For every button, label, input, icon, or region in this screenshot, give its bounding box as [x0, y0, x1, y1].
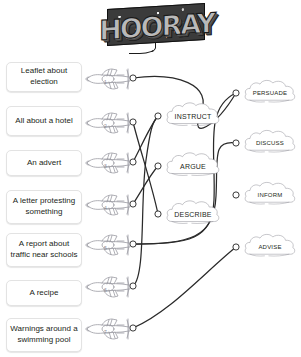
purpose-cloud[interactable]: DISCUSS — [242, 128, 298, 158]
plane-icon[interactable]: 7 — [84, 314, 140, 344]
plane-number: 2 — [104, 123, 107, 129]
prompt-card-label: Warnings around a swimming pool — [10, 324, 78, 345]
plane-number: 1 — [104, 79, 107, 85]
purpose-cloud[interactable]: PERSUADE — [242, 78, 298, 108]
cloud-connector-node[interactable] — [155, 211, 161, 217]
prompt-card[interactable]: Warnings around a swimming pool — [6, 318, 82, 352]
purpose-cloud[interactable]: INSTRUCT — [164, 100, 222, 132]
prompt-card[interactable]: A letter protesting something — [6, 190, 82, 224]
plane-number: 4 — [104, 205, 107, 211]
cloud-connector-node[interactable] — [233, 140, 239, 146]
plane-icon[interactable]: 5 — [84, 230, 140, 260]
prompt-card[interactable]: A recipe — [6, 280, 82, 306]
plane-number: 6 — [104, 287, 107, 293]
prompt-card-label: All about a hotel — [15, 116, 72, 127]
cloud-connector-node[interactable] — [233, 244, 239, 250]
plane-icon[interactable]: 4 — [84, 190, 140, 220]
plane-icon[interactable]: 6 — [84, 272, 140, 302]
plane-icon[interactable]: 2 — [84, 108, 140, 138]
cloud-connector-node[interactable] — [233, 192, 239, 198]
prompt-card-label: A letter protesting something — [10, 196, 78, 217]
cloud-connector-node[interactable] — [233, 90, 239, 96]
plane-number: 5 — [104, 245, 107, 251]
purpose-cloud[interactable]: ADVISE — [242, 232, 298, 262]
prompt-card-label: Leaflet about election — [10, 66, 78, 87]
purpose-cloud[interactable]: DESCRIBE — [164, 198, 222, 230]
activity-canvas: HOORAY Leaflet about electionAll about a… — [0, 0, 301, 357]
plane-number: 7 — [104, 329, 107, 335]
prompt-card[interactable]: An advert — [6, 150, 82, 176]
cloud-connector-node[interactable] — [155, 163, 161, 169]
purpose-cloud[interactable]: ARGUE — [164, 150, 222, 182]
plane-icon[interactable]: 3 — [84, 148, 140, 178]
purpose-cloud[interactable]: INFORM — [242, 180, 298, 210]
connector-line[interactable] — [133, 247, 236, 328]
prompt-card-label: A recipe — [30, 288, 59, 299]
prompt-card[interactable]: All about a hotel — [6, 106, 82, 136]
plane-number: 3 — [104, 163, 107, 169]
prompt-card-label: A report about traffic near schools — [10, 239, 78, 260]
cloud-connector-node[interactable] — [155, 113, 161, 119]
prompt-card-label: An advert — [27, 158, 61, 169]
prompt-card[interactable]: A report about traffic near schools — [6, 233, 82, 267]
plane-icon[interactable]: 1 — [84, 64, 140, 94]
prompt-card[interactable]: Leaflet about election — [6, 62, 82, 92]
